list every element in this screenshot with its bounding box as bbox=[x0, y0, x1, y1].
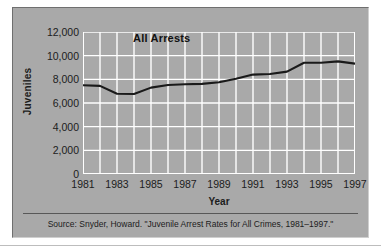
y-tick-label: 10,000 bbox=[31, 51, 79, 61]
source-divider bbox=[23, 213, 358, 214]
chart-body: Juveniles 02,0004,0006,0008,00010,00012,… bbox=[13, 8, 368, 213]
plot-area bbox=[83, 32, 355, 174]
x-axis-title: Year bbox=[83, 196, 355, 207]
y-tick-label: 4,000 bbox=[31, 122, 79, 132]
x-axis-tick-labels: 198119831985198719891991199319951997 bbox=[83, 178, 355, 192]
series-inline-label: All Arrests bbox=[133, 32, 190, 44]
y-tick-label: 12,000 bbox=[31, 27, 79, 37]
line-chart-svg bbox=[83, 32, 355, 174]
clipped-title-text: Juvenile Arrest Rates for All Crimes bbox=[46, 0, 210, 1]
x-tick-label: 1997 bbox=[335, 178, 375, 190]
y-tick-label: 8,000 bbox=[31, 74, 79, 84]
source-note: Source: Snyder, Howard. "Juvenile Arrest… bbox=[23, 219, 358, 229]
clipped-title-strip: Juvenile Arrest Rates for All Crimes bbox=[0, 0, 381, 6]
y-tick-label: 2,000 bbox=[31, 145, 79, 155]
figure-panel: Juveniles 02,0004,0006,0008,00010,00012,… bbox=[12, 7, 369, 238]
y-tick-label: 6,000 bbox=[31, 98, 79, 108]
page-bottom-rule bbox=[0, 245, 381, 246]
